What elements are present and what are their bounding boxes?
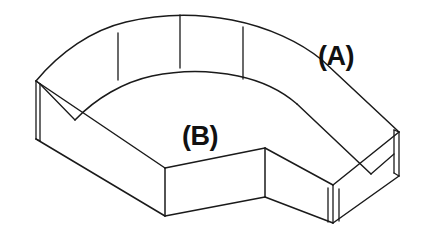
- isometric-drawing-canvas: (A) (B): [0, 0, 431, 244]
- label-b-text: (B): [182, 121, 218, 151]
- label-a-text: (A): [318, 41, 354, 71]
- isometric-block-figure: (A) (B): [0, 0, 431, 244]
